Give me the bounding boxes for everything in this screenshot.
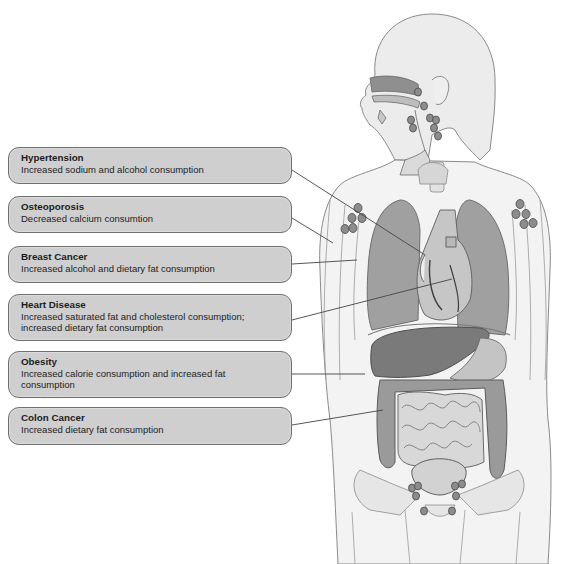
- label-description: Increased sodium and alcohol consumption: [21, 164, 281, 176]
- label-title: Osteoporosis: [21, 201, 281, 213]
- label-colon-cancer: Colon Cancer Increased dietary fat consu…: [8, 407, 292, 445]
- label-hypertension: Hypertension Increased sodium and alcoho…: [8, 147, 292, 184]
- label-title: Hypertension: [21, 152, 281, 164]
- label-description: Increased saturated fat and cholesterol …: [21, 311, 281, 334]
- label-title: Heart Disease: [21, 299, 281, 311]
- label-description: Increased calorie consumption and increa…: [21, 368, 241, 391]
- label-breast-cancer: Breast Cancer Increased alcohol and diet…: [8, 246, 292, 283]
- label-title: Obesity: [21, 356, 281, 368]
- label-heart-disease: Heart Disease Increased saturated fat an…: [8, 294, 292, 341]
- label-osteoporosis: Osteoporosis Decreased calcium consumtio…: [8, 196, 292, 233]
- label-obesity: Obesity Increased calorie consumption an…: [8, 351, 292, 398]
- label-description: Increased dietary fat consumption: [21, 424, 281, 436]
- label-title: Colon Cancer: [21, 412, 281, 424]
- label-description: Decreased calcium consumtion: [21, 213, 281, 225]
- label-description: Increased alcohol and dietary fat consum…: [21, 263, 281, 275]
- label-title: Breast Cancer: [21, 251, 281, 263]
